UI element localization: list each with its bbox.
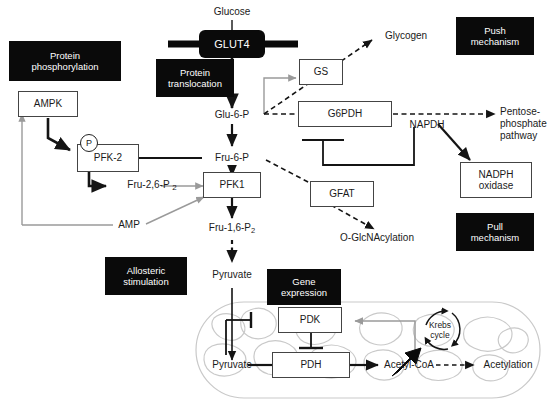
nadph-oxidase-line1: NADPH xyxy=(478,169,513,180)
ppp-line3: pathway xyxy=(500,130,537,141)
protein-translocation-line2: translocation xyxy=(168,78,222,89)
o-glcnacylation-label: O-GlcNAcylation xyxy=(340,232,414,243)
pull-mechanism-line1: Pull xyxy=(487,221,503,232)
ppp-line2: phosphate xyxy=(500,118,547,129)
metabolite-acetylation: Acetylation xyxy=(484,359,533,371)
acetylation-label: Acetylation xyxy=(484,359,533,370)
fru-2-6-p2-label: Fru-2,6-P xyxy=(127,179,169,190)
mitochondrion-outline xyxy=(196,302,540,398)
pathway-diagram: Protein phosphorylation Protein transloc… xyxy=(0,0,558,407)
fru-6-p-label: Fru-6-P xyxy=(215,152,249,163)
glut4-label: GLUT4 xyxy=(214,38,249,50)
gs-label: GS xyxy=(314,66,328,78)
metabolite-glu-6-p: Glu-6-P xyxy=(215,109,249,121)
metabolite-o-glcnacylation: O-GlcNAcylation xyxy=(340,232,414,244)
fru-1-6-p2-subscript: 2 xyxy=(251,226,255,235)
metabolite-fru-2-6-p2: Fru-2,6-P 2 xyxy=(127,179,176,193)
black-box-pull-mechanism: Pull mechanism xyxy=(456,213,534,251)
enzyme-box-gfat: GFAT xyxy=(310,181,374,207)
acetyl-coa-label: Acetyl-CoA xyxy=(384,359,434,370)
pfk2-label: PFK-2 xyxy=(94,152,122,164)
pull-mechanism-line2: mechanism xyxy=(471,232,520,243)
enzyme-box-pfk1: PFK1 xyxy=(203,172,261,198)
metabolite-glucose: Glucose xyxy=(214,6,251,18)
gene-expression-line2: expression xyxy=(281,287,327,298)
metabolite-napdh: NAPDH xyxy=(409,119,444,131)
enzyme-box-g6pdh: G6PDH xyxy=(298,101,392,127)
fru-2-6-p2-subscript: 2 xyxy=(172,183,176,192)
pdk-label: PDK xyxy=(300,314,321,326)
krebs-line1: Krebs xyxy=(429,320,451,330)
metabolite-acetyl-coa: Acetyl-CoA xyxy=(384,359,434,371)
ampk-label: AMPK xyxy=(34,98,62,110)
pyruvate-cytosol-label: Pyruvate xyxy=(212,269,251,280)
allosteric-stimulation-line1: Allosteric xyxy=(127,265,166,276)
glut4-transporter: GLUT4 xyxy=(199,30,265,58)
black-box-protein-translocation: Protein translocation xyxy=(156,59,234,97)
push-mechanism-line2: mechanism xyxy=(471,36,520,47)
glycogen-label: Glycogen xyxy=(385,30,427,41)
metabolite-pyruvate-mito: Pyruvate xyxy=(212,359,251,371)
protein-translocation-line1: Protein xyxy=(180,67,210,78)
fru-1-6-p2-label: Fru-1,6-P xyxy=(209,222,251,233)
pyruvate-mito-label: Pyruvate xyxy=(212,359,251,370)
black-box-protein-phosphorylation: Protein phosphorylation xyxy=(9,41,121,81)
phosphate-group-icon: P xyxy=(80,134,98,152)
pfk1-label: PFK1 xyxy=(219,179,244,191)
glucose-label: Glucose xyxy=(214,6,251,17)
push-mechanism-line1: Push xyxy=(484,25,506,36)
gene-expression-line1: Gene xyxy=(292,276,315,287)
glu-6-p-label: Glu-6-P xyxy=(215,109,249,120)
krebs-line2: cycle xyxy=(430,330,449,340)
enzyme-box-ampk: AMPK xyxy=(18,91,78,117)
napdh-feedback-inhibition xyxy=(302,127,414,165)
nadph-oxidase-line2: oxidase xyxy=(479,180,513,191)
protein-phosphorylation-line2: phosphorylation xyxy=(31,61,98,72)
krebs-cycle-label: Krebs cycle xyxy=(429,320,451,340)
phosphate-label: P xyxy=(86,138,92,148)
allosteric-stimulation-line2: stimulation xyxy=(123,276,168,287)
pdh-label: PDH xyxy=(300,359,321,371)
enzyme-box-pdh: PDH xyxy=(272,352,350,378)
enzyme-box-pdk: PDK xyxy=(278,307,342,333)
metabolite-fru-6-p: Fru-6-P xyxy=(215,152,249,164)
black-box-gene-expression: Gene expression xyxy=(267,269,341,305)
black-box-allosteric-stimulation: Allosteric stimulation xyxy=(105,257,187,295)
enzyme-box-gs: GS xyxy=(299,59,343,85)
metabolite-fru-1-6-p2: Fru-1,6-P2 xyxy=(209,222,255,236)
enzyme-box-nadph-oxidase: NADPH oxidase xyxy=(460,162,532,198)
metabolite-pyruvate-cytosol: Pyruvate xyxy=(212,269,251,281)
ppp-line1: Pentose- xyxy=(500,106,540,117)
g6pdh-label: G6PDH xyxy=(328,108,362,120)
metabolite-amp: AMP xyxy=(118,219,140,231)
amp-label: AMP xyxy=(118,219,140,230)
output-pentose-phosphate-pathway: Pentose- phosphate pathway xyxy=(500,106,547,142)
napdh-label: NAPDH xyxy=(409,119,444,130)
gfat-label: GFAT xyxy=(329,188,354,200)
metabolite-glycogen: Glycogen xyxy=(385,30,427,42)
black-box-push-mechanism: Push mechanism xyxy=(456,17,534,55)
protein-phosphorylation-line1: Protein xyxy=(50,50,80,61)
